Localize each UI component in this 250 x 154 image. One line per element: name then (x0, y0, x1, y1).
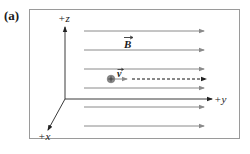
field-label: B (123, 36, 133, 50)
charged-particle: v (107, 68, 206, 83)
y-axis-label: +y (214, 93, 226, 105)
x-axis (48, 99, 65, 130)
diagram-canvas: B +z +y +x v (0, 0, 250, 154)
magnetic-field-diagram: (a) B (0, 0, 250, 154)
field-label-text: B (123, 38, 131, 50)
panel-label: (a) (4, 8, 19, 24)
diagram-frame (30, 10, 240, 139)
x-axis-label: +x (38, 130, 50, 142)
z-axis-label: +z (58, 12, 70, 24)
